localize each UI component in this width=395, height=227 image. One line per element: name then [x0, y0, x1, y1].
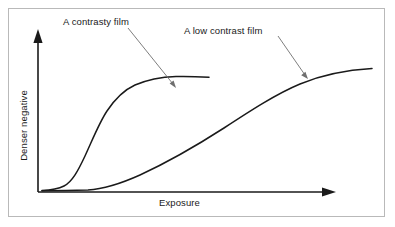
low-contrast-film-curve [42, 69, 372, 191]
figure-root: A contrasty film A low contrast film Exp… [0, 0, 395, 227]
y-axis-arrow-icon [33, 29, 42, 43]
contrasty-film-leader-line [128, 28, 173, 84]
low-contrast-film-leader-arrow-icon [301, 72, 308, 79]
x-axis-label: Exposure [159, 197, 200, 208]
y-axis-label: Denser negative [18, 86, 29, 166]
x-axis-arrow-icon [322, 187, 336, 196]
contrasty-film-label: A contrasty film [63, 16, 129, 27]
low-contrast-film-label: A low contrast film [184, 25, 262, 36]
contrasty-film-curve [42, 76, 209, 190]
low-contrast-film-leader-line [278, 36, 305, 75]
